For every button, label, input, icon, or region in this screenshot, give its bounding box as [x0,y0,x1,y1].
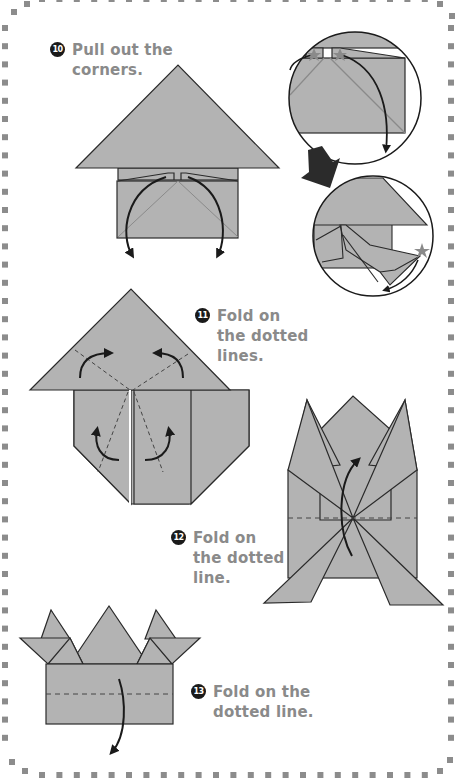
detail-circle-before [280,28,430,164]
step-number-badge: 12 [171,530,186,545]
origami-instruction-page: 10 Pull out the corners. 11 Fold on the … [0,0,469,781]
diagram-canvas [0,0,469,781]
detail-circle-after [310,176,433,296]
step-number-badge: 10 [50,42,65,57]
step-number-badge: 13 [191,684,206,699]
transition-arrow-icon [301,146,340,188]
step-12-diagram [264,396,443,605]
step-10-instruction: 10 Pull out the corners. [72,40,173,80]
step-10-diagram [76,65,279,255]
step-13-instruction: 13 Fold on the dotted line. [213,682,314,722]
step-13-diagram [20,606,200,752]
step-number-badge: 11 [195,308,210,323]
step-11-instruction: 11 Fold on the dotted lines. [217,306,309,366]
step-12-instruction: 12 Fold on the dotted line. [193,528,285,588]
